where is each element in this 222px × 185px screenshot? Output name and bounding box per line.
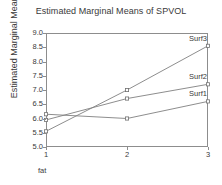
series-label-surf3: Surf3 bbox=[175, 34, 207, 43]
x-tick-label: 1 bbox=[31, 150, 61, 159]
chart-figure: Estimated Marginal Means of SPVOL Estima… bbox=[0, 0, 222, 185]
x-tick-mark bbox=[127, 147, 128, 150]
x-tick-label: 3 bbox=[193, 150, 222, 159]
series-label-surf2: Surf2 bbox=[175, 72, 207, 81]
x-tick-label: 2 bbox=[112, 150, 142, 159]
x-tick-mark bbox=[208, 147, 209, 150]
x-axis-title: fat bbox=[38, 166, 46, 175]
series-label-surf1: Surf1 bbox=[175, 89, 207, 98]
x-tick-mark bbox=[46, 147, 47, 150]
